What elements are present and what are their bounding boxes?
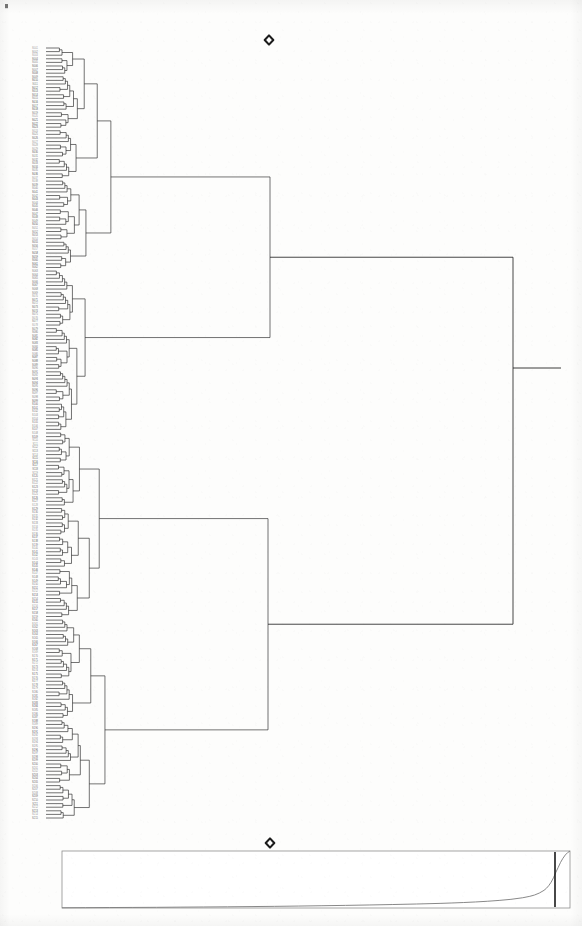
leaf-label: S108 (32, 431, 39, 435)
leaf-label: S213 (32, 809, 39, 813)
leaf-label: S021 (32, 118, 39, 122)
leaf-label: S125 (32, 492, 39, 496)
leaf-label: S087 (32, 355, 39, 359)
leaf-label: S172 (32, 661, 39, 665)
leaf-label: S208 (32, 791, 39, 795)
leaf-label: S046 (32, 208, 39, 212)
scree-plot-box (62, 851, 570, 908)
page-background (0, 0, 582, 926)
leaf-label: S053 (32, 233, 39, 237)
leaf-label: S101 (32, 406, 39, 410)
leaf-label: S141 (32, 550, 39, 554)
leaf-label: S098 (32, 395, 39, 399)
leaf-label: S168 (32, 647, 39, 651)
leaf-label: S064 (32, 273, 39, 277)
leaf-label: S024 (32, 129, 39, 133)
leaf-label: S091 (32, 370, 39, 374)
leaf-label: S188 (32, 719, 39, 723)
leaf-label: S054 (32, 237, 39, 241)
leaf-label: S043 (32, 197, 39, 201)
leaf-label: S150 (32, 582, 39, 586)
leaf-label: S025 (32, 132, 39, 136)
leaf-label: S212 (32, 805, 39, 809)
leaf-label: S137 (32, 535, 39, 539)
leaf-label: S007 (32, 68, 39, 72)
leaf-label: S167 (32, 643, 39, 647)
leaf-label: S189 (32, 722, 39, 726)
leaf-label: S171 (32, 658, 39, 662)
leaf-label: S140 (32, 546, 39, 550)
leaf-label: S110 (32, 438, 38, 442)
leaf-label: S029 (32, 147, 39, 151)
leaf-label: S160 (32, 618, 39, 622)
leaf-label: S072 (32, 301, 39, 305)
leaf-label: S013 (32, 89, 39, 93)
leaf-label: S077 (32, 319, 39, 323)
leaf-label: S115 (32, 456, 38, 460)
leaf-label: S044 (32, 201, 39, 205)
leaf-label: S009 (32, 75, 39, 79)
leaf-label: S135 (32, 528, 39, 532)
leaf-label: S001 (32, 46, 39, 50)
leaf-label: S128 (32, 503, 39, 507)
leaf-label: S061 (32, 262, 39, 266)
leaf-label: S138 (32, 539, 39, 543)
leaf-label: S147 (32, 571, 39, 575)
leaf-label: S199 (32, 758, 39, 762)
leaf-label: S079 (32, 327, 39, 331)
leaf-label: S026 (32, 136, 39, 140)
leaf-label: S094 (32, 381, 39, 385)
leaf-label: S039 (32, 183, 39, 187)
leaf-label: S161 (32, 622, 39, 626)
leaf-label: S080 (32, 330, 39, 334)
leaf-label: S152 (32, 589, 39, 593)
leaf-label: S149 (32, 579, 39, 583)
leaf-label: S018 (32, 107, 39, 111)
leaf-label: S017 (32, 104, 39, 108)
leaf-label: S197 (32, 751, 39, 755)
leaf-label: S089 (32, 363, 39, 367)
leaf-label: S015 (32, 96, 39, 100)
leaf-label: S066 (32, 280, 39, 284)
leaf-label: S069 (32, 291, 39, 295)
leaf-label: S065 (32, 276, 39, 280)
leaf-label: S129 (32, 507, 39, 511)
leaf-label: S012 (32, 86, 39, 90)
leaf-label: S195 (32, 744, 39, 748)
leaf-label: S052 (32, 230, 39, 234)
leaf-label: S156 (32, 604, 39, 608)
leaf-label: S030 (32, 150, 39, 154)
leaf-label: S204 (32, 776, 39, 780)
leaf-label: S111 (32, 442, 38, 446)
leaf-label: S063 (32, 269, 39, 273)
leaf-label: S157 (32, 607, 39, 611)
scan-speck-top-left (5, 4, 8, 8)
leaf-label: S180 (32, 690, 39, 694)
leaf-label: S067 (32, 283, 39, 287)
leaf-label: S037 (32, 176, 39, 180)
leaf-label: S148 (32, 575, 39, 579)
leaf-label: S028 (32, 143, 39, 147)
leaf-label: S214 (32, 812, 39, 816)
leaf-label: S151 (32, 586, 39, 590)
leaf-label: S059 (32, 255, 39, 259)
leaf-label: S088 (32, 359, 39, 363)
leaf-label: S093 (32, 377, 39, 381)
leaf-label: S178 (32, 683, 39, 687)
leaf-label: S203 (32, 773, 39, 777)
leaf-label: S096 (32, 388, 39, 392)
leaf-label: S198 (32, 755, 39, 759)
leaf-label: S035 (32, 168, 39, 172)
leaf-label: S201 (32, 766, 39, 770)
leaf-label: S153 (32, 593, 39, 597)
leaf-label: S084 (32, 345, 39, 349)
leaf-label: S057 (32, 247, 39, 251)
leaf-label: S192 (32, 733, 39, 737)
leaf-label: S123 (32, 485, 39, 489)
leaf-label: S121 (32, 478, 39, 482)
leaf-label: S008 (32, 71, 39, 75)
leaf-label: S116 (32, 460, 38, 464)
leaf-label: S068 (32, 287, 39, 291)
leaf-label: S145 (32, 564, 39, 568)
leaf-label: S034 (32, 165, 39, 169)
